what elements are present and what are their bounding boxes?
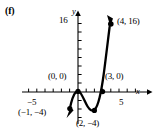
panel-label: (f) xyxy=(5,6,14,16)
point-label-neg1-neg4: (−1, −4) xyxy=(18,108,46,117)
point-marker-4-16 xyxy=(108,21,114,27)
x-tick-label-neg5: −5 xyxy=(27,98,36,107)
y-axis-arrowhead xyxy=(75,11,81,17)
point-marker-3-0 xyxy=(100,89,105,94)
point-marker-2-neg4 xyxy=(92,108,97,113)
point-marker-neg1-neg4 xyxy=(67,106,72,111)
graph-figure: (f) y x 16 −5 5 (4, 16) (0, 0) (3, 0) (−… xyxy=(0,0,154,134)
point-label-3-0: (3, 0) xyxy=(105,72,123,81)
x-tick-label-5: 5 xyxy=(119,98,123,107)
point-label-4-16: (4, 16) xyxy=(117,17,140,26)
point-label-0-0: (0, 0) xyxy=(48,72,66,81)
point-marker-0-0 xyxy=(75,89,80,94)
point-label-2-neg4: (2, −4) xyxy=(76,119,99,128)
x-axis-label: x xyxy=(136,87,140,96)
cubic-curve xyxy=(70,27,110,111)
x-axis-arrowhead xyxy=(147,89,153,95)
y-tick-label-16: 16 xyxy=(59,16,68,25)
y-axis-label: y xyxy=(72,7,76,16)
